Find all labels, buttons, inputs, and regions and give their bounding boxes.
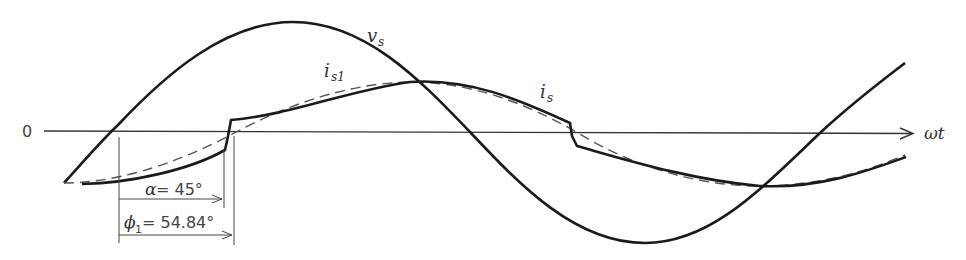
svg-text:s: s [547, 91, 553, 105]
svg-text:i: i [540, 81, 546, 102]
is-curve [82, 82, 906, 187]
is1-label: i s1 [324, 60, 345, 84]
svg-text:i: i [324, 60, 330, 81]
alpha-annotation: α = 45° [145, 179, 203, 199]
svg-text:= 45°: = 45° [156, 180, 203, 199]
x-axis-label: ωt [924, 123, 945, 143]
waveform-diagram: 0 ωt v s i s1 i s α = 45° ϕ 1 = 54.84° [0, 0, 966, 260]
origin-label: 0 [22, 122, 32, 141]
x-axis [44, 131, 912, 134]
svg-text:s1: s1 [331, 70, 345, 84]
vs-label: v s [367, 25, 384, 49]
phi-annotation: ϕ 1 = 54.84° [124, 212, 214, 236]
svg-text:1: 1 [135, 223, 142, 236]
is-label: i s [540, 81, 553, 105]
svg-text:= 54.84°: = 54.84° [142, 213, 214, 232]
svg-text:v: v [367, 25, 377, 46]
svg-text:s: s [378, 35, 384, 49]
